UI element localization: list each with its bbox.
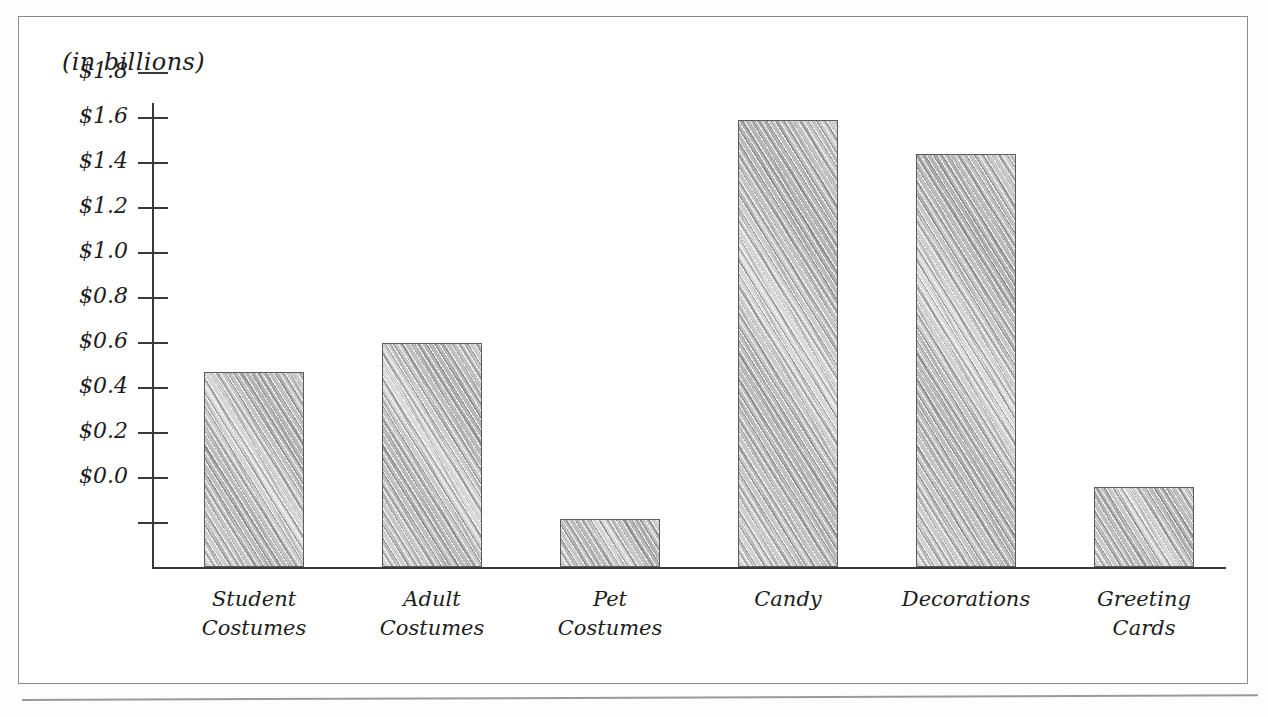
y-axis-tick xyxy=(138,522,168,524)
y-axis-tick-label: $1.0 xyxy=(38,238,128,263)
y-axis-tick xyxy=(138,477,168,479)
bar[interactable] xyxy=(204,372,304,567)
y-axis-tick xyxy=(138,432,168,434)
bar[interactable] xyxy=(382,343,482,567)
y-axis-tick-label: $1.4 xyxy=(38,148,128,173)
x-axis-category-label: Greeting Cards xyxy=(1049,585,1239,643)
y-axis-tick xyxy=(138,162,168,164)
y-axis-tick-label: $0.2 xyxy=(38,418,128,443)
y-axis-tick xyxy=(138,387,168,389)
y-axis-tick-labels: $1.8$1.6$1.4$1.2$1.0$0.8$0.6$0.4$0.2$0.0 xyxy=(32,0,128,600)
y-axis-tick xyxy=(138,252,168,254)
y-axis-tick-label: $0.6 xyxy=(38,328,128,353)
x-axis-category-label: Student Costumes xyxy=(159,585,349,643)
y-axis-tick xyxy=(138,342,168,344)
bar[interactable] xyxy=(560,519,660,568)
bar[interactable] xyxy=(916,154,1016,567)
y-axis-tick-label: $0.8 xyxy=(38,283,128,308)
y-axis-tick-label: $1.8 xyxy=(38,58,128,83)
figure-page: (in billions) $1.8$1.6$1.4$1.2$1.0$0.8$0… xyxy=(0,0,1268,717)
y-axis-tick xyxy=(138,297,168,299)
bar[interactable] xyxy=(738,120,838,567)
x-axis-category-label: Adult Costumes xyxy=(337,585,527,643)
bar-chart: (in billions) $1.8$1.6$1.4$1.2$1.0$0.8$0… xyxy=(0,0,1268,717)
y-axis-line xyxy=(152,103,154,569)
x-axis-category-label: Candy xyxy=(693,585,883,614)
y-axis-tick-label: $1.6 xyxy=(38,103,128,128)
x-axis-category-label: Decorations xyxy=(871,585,1061,614)
y-axis-tick xyxy=(138,72,168,74)
y-axis-tick xyxy=(138,207,168,209)
x-axis-category-label: Pet Costumes xyxy=(515,585,705,643)
y-axis-tick-label: $1.2 xyxy=(38,193,128,218)
y-axis-tick xyxy=(138,117,168,119)
bar[interactable] xyxy=(1094,487,1194,567)
y-axis-tick-label: $0.0 xyxy=(38,463,128,488)
x-axis-line xyxy=(152,567,1226,569)
y-axis-tick-label: $0.4 xyxy=(38,373,128,398)
